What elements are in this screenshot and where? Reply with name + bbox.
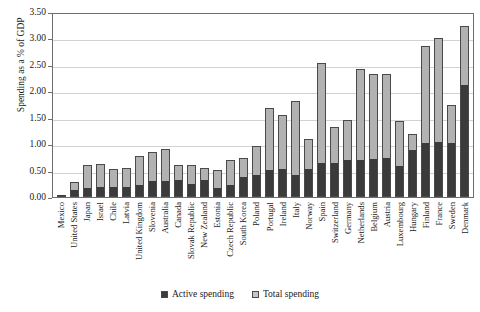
stacked-bar[interactable] bbox=[408, 134, 416, 197]
stacked-bar[interactable] bbox=[239, 158, 247, 197]
bar-column[interactable] bbox=[250, 14, 263, 197]
bar-column[interactable] bbox=[172, 14, 185, 197]
bar-column[interactable] bbox=[211, 14, 224, 197]
x-label-column: Austria bbox=[381, 200, 394, 282]
stacked-bar[interactable] bbox=[109, 169, 117, 197]
bar-column[interactable] bbox=[81, 14, 94, 197]
stacked-bar[interactable] bbox=[369, 74, 377, 197]
bar-column[interactable] bbox=[107, 14, 120, 197]
bar-segment-active-spending bbox=[97, 187, 103, 197]
x-tick-label: Japan bbox=[82, 202, 91, 222]
bar-column[interactable] bbox=[432, 14, 445, 197]
stacked-bar[interactable] bbox=[226, 160, 234, 197]
stacked-bar[interactable] bbox=[187, 165, 195, 197]
bar-segment-active-spending bbox=[84, 188, 90, 196]
y-tick-label: 2.00 bbox=[0, 88, 46, 98]
stacked-bar[interactable] bbox=[434, 38, 442, 197]
bar-segment-total-spending bbox=[292, 102, 298, 175]
bar-column[interactable] bbox=[354, 14, 367, 197]
bar-column[interactable] bbox=[315, 14, 328, 197]
bar-column[interactable] bbox=[380, 14, 393, 197]
bar-column[interactable] bbox=[198, 14, 211, 197]
bar-column[interactable] bbox=[367, 14, 380, 197]
x-tick-label: Poland bbox=[252, 202, 261, 226]
bar-segment-total-spending bbox=[435, 39, 441, 141]
stacked-bar[interactable] bbox=[317, 63, 325, 197]
bar-segment-active-spending bbox=[448, 143, 454, 196]
stacked-bar[interactable] bbox=[213, 170, 221, 197]
bar-column[interactable] bbox=[289, 14, 302, 197]
stacked-bar[interactable] bbox=[356, 69, 364, 197]
bar-column[interactable] bbox=[55, 14, 68, 197]
bar-column[interactable] bbox=[393, 14, 406, 197]
stacked-bar[interactable] bbox=[382, 74, 390, 197]
bar-column[interactable] bbox=[276, 14, 289, 197]
bar-column[interactable] bbox=[224, 14, 237, 197]
spending-gdp-bar-chart: Spending as a % of GDP 0.000.501.001.502… bbox=[0, 0, 480, 312]
bar-column[interactable] bbox=[120, 14, 133, 197]
bar-column[interactable] bbox=[263, 14, 276, 197]
x-tick-label: South Korea bbox=[239, 202, 248, 245]
stacked-bar[interactable] bbox=[460, 26, 468, 197]
stacked-bar[interactable] bbox=[278, 115, 286, 197]
bar-column[interactable] bbox=[159, 14, 172, 197]
stacked-bar[interactable] bbox=[57, 195, 65, 197]
stacked-bar[interactable] bbox=[174, 165, 182, 197]
bar-segment-active-spending bbox=[227, 185, 233, 196]
legend-swatch-active-icon bbox=[161, 291, 168, 298]
stacked-bar[interactable] bbox=[83, 165, 91, 197]
bar-column[interactable] bbox=[185, 14, 198, 197]
y-tick-label: 0.00 bbox=[0, 193, 46, 203]
bar-segment-total-spending bbox=[97, 165, 103, 186]
bar-segment-total-spending bbox=[344, 121, 350, 160]
stacked-bar[interactable] bbox=[291, 101, 299, 197]
x-tick-label: Denmark bbox=[461, 202, 470, 234]
stacked-bar[interactable] bbox=[122, 168, 130, 197]
stacked-bar[interactable] bbox=[161, 149, 169, 197]
legend-item-active-spending: Active spending bbox=[161, 289, 234, 299]
stacked-bar[interactable] bbox=[252, 146, 260, 197]
stacked-bar[interactable] bbox=[135, 156, 143, 197]
bar-segment-total-spending bbox=[240, 159, 246, 177]
x-tick-label: Israel bbox=[95, 202, 104, 221]
bar-segment-total-spending bbox=[71, 183, 77, 190]
stacked-bar[interactable] bbox=[265, 108, 273, 197]
bar-column[interactable] bbox=[419, 14, 432, 197]
bar-segment-active-spending bbox=[305, 169, 311, 196]
y-tick-label: 3.00 bbox=[0, 35, 46, 45]
bar-column[interactable] bbox=[68, 14, 81, 197]
stacked-bar[interactable] bbox=[96, 164, 104, 197]
stacked-bar[interactable] bbox=[330, 127, 338, 197]
bar-column[interactable] bbox=[341, 14, 354, 197]
bar-column[interactable] bbox=[445, 14, 458, 197]
bar-segment-total-spending bbox=[136, 157, 142, 186]
bar-column[interactable] bbox=[406, 14, 419, 197]
stacked-bar[interactable] bbox=[148, 152, 156, 197]
x-label-column: Mexico bbox=[54, 200, 67, 282]
stacked-bar[interactable] bbox=[421, 46, 429, 197]
bar-column[interactable] bbox=[146, 14, 159, 197]
bar-segment-total-spending bbox=[409, 135, 415, 150]
x-axis-category-labels: MexicoUnited StatesJapanIsraelChileLatvi… bbox=[52, 200, 474, 282]
bar-segment-total-spending bbox=[253, 147, 259, 175]
stacked-bar[interactable] bbox=[447, 105, 455, 198]
x-tick-label: Ireland bbox=[278, 202, 287, 226]
bar-column[interactable] bbox=[302, 14, 315, 197]
x-tick-label: Italy bbox=[291, 202, 300, 218]
x-label-column: Latvia bbox=[119, 200, 132, 282]
stacked-bar[interactable] bbox=[395, 121, 403, 197]
stacked-bar[interactable] bbox=[200, 168, 208, 197]
legend-swatch-total-icon bbox=[252, 291, 259, 298]
bar-column[interactable] bbox=[237, 14, 250, 197]
bar-segment-total-spending bbox=[214, 171, 220, 189]
stacked-bar[interactable] bbox=[343, 120, 351, 197]
bar-column[interactable] bbox=[458, 14, 471, 197]
bar-column[interactable] bbox=[133, 14, 146, 197]
stacked-bar[interactable] bbox=[304, 139, 312, 197]
bar-segment-active-spending bbox=[110, 187, 116, 197]
stacked-bar[interactable] bbox=[70, 182, 78, 197]
bar-column[interactable] bbox=[328, 14, 341, 197]
chart-legend: Active spending Total spending bbox=[0, 289, 480, 299]
bar-segment-active-spending bbox=[318, 163, 324, 196]
bar-column[interactable] bbox=[94, 14, 107, 197]
